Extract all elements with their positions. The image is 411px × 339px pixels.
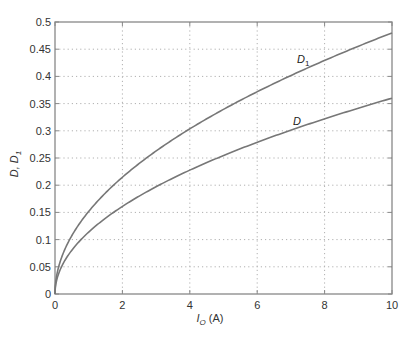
y-tick-label: 0.1 (36, 234, 51, 246)
y-tick-label: 0.45 (30, 43, 51, 55)
y-tick-label: 0.3 (36, 125, 51, 137)
y-tick-label: 0.2 (36, 179, 51, 191)
curve-label-d: D (293, 115, 301, 127)
y-tick-label: 0.15 (30, 206, 51, 218)
x-tick-label: 6 (254, 299, 260, 311)
chart: 00.050.10.150.20.250.30.350.40.450.5 024… (0, 0, 411, 339)
y-tick-label: 0.25 (30, 152, 51, 164)
y-tick-label: 0.35 (30, 98, 51, 110)
curve-d1 (55, 33, 392, 294)
curve-d (55, 98, 392, 294)
x-tick-label: 8 (322, 299, 328, 311)
x-axis-ticks: 0246810 (52, 22, 398, 311)
y-tick-label: 0.5 (36, 16, 51, 28)
y-tick-label: 0 (45, 288, 51, 300)
x-tick-label: 4 (187, 299, 193, 311)
y-axis-label: D, D1 (8, 151, 23, 177)
curves (55, 33, 392, 294)
x-tick-label: 0 (52, 299, 58, 311)
y-tick-label: 0.4 (36, 70, 51, 82)
x-tick-label: 2 (119, 299, 125, 311)
x-tick-label: 10 (386, 299, 398, 311)
x-axis-label: IO(A) (197, 312, 224, 327)
y-tick-label: 0.05 (30, 261, 51, 273)
curve-label-d1: D1 (297, 53, 310, 68)
grid-lines (55, 22, 392, 294)
